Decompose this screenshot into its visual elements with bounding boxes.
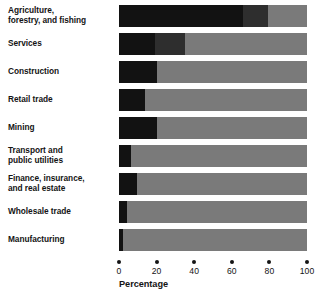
category-label: Construction: [8, 66, 115, 76]
bar-segment-dark-segment: [119, 145, 131, 167]
category-label: Finance, insurance,and real estate: [8, 173, 115, 194]
category-label-line: Services: [8, 38, 115, 48]
x-axis-tick-label: 40: [180, 266, 208, 276]
bar-segment-dark-segment: [119, 5, 243, 27]
bar-row: [119, 33, 307, 55]
bar-row: [119, 173, 307, 195]
x-axis-title: Percentage: [119, 279, 168, 289]
category-label: Agriculture,forestry, and fishing: [8, 5, 115, 26]
tick-dot-icon: [155, 260, 159, 264]
category-label: Services: [8, 38, 115, 48]
bar-row: [119, 145, 307, 167]
bar-segment-light-segment: [157, 117, 307, 139]
bar-row: [119, 5, 307, 27]
category-label-line: Finance, insurance,: [8, 173, 115, 183]
bar-segment-dark-segment: [119, 89, 145, 111]
tick-dot-icon: [230, 260, 234, 264]
category-label-line: Retail trade: [8, 94, 115, 104]
bar-segment-light-segment: [157, 61, 307, 83]
category-label-line: forestry, and fishing: [8, 15, 115, 25]
x-axis-tick-label: 60: [218, 266, 246, 276]
category-label-line: Construction: [8, 66, 115, 76]
category-label-line: Mining: [8, 122, 115, 132]
bar-segment-medium-segment: [155, 33, 185, 55]
bar-segment-light-segment: [127, 201, 307, 223]
bar-segment-dark-segment: [119, 173, 137, 195]
bar-segment-light-segment: [145, 89, 307, 111]
category-label-line: Wholesale trade: [8, 206, 115, 216]
bar-segment-light-segment: [137, 173, 307, 195]
category-label: Retail trade: [8, 94, 115, 104]
plot-area: [119, 0, 307, 258]
x-axis-tick-label: 20: [143, 266, 171, 276]
bar-row: [119, 201, 307, 223]
bar-segment-light-segment: [268, 5, 307, 27]
bar-row: [119, 229, 307, 251]
x-axis: 020406080100: [119, 258, 307, 298]
category-label-line: Manufacturing: [8, 234, 115, 244]
category-label-line: Transport and: [8, 145, 115, 155]
bar-segment-dark-segment: [119, 117, 157, 139]
category-labels-column: Agriculture,forestry, and fishingService…: [0, 0, 113, 258]
tick-dot-icon: [267, 260, 271, 264]
category-label-line: Agriculture,: [8, 5, 115, 15]
bar-segment-dark-segment: [119, 201, 127, 223]
category-label: Wholesale trade: [8, 206, 115, 216]
x-axis-tick-label: 80: [255, 266, 283, 276]
bar-segment-light-segment: [131, 145, 307, 167]
bar-row: [119, 61, 307, 83]
bar-segment-dark-segment: [119, 61, 157, 83]
category-label: Mining: [8, 122, 115, 132]
category-label-line: public utilities: [8, 155, 115, 165]
bar-row: [119, 117, 307, 139]
category-label-line: and real estate: [8, 183, 115, 193]
bar-segment-light-segment: [123, 229, 307, 251]
bar-segment-dark-segment: [119, 33, 155, 55]
category-label: Manufacturing: [8, 234, 115, 244]
x-axis-tick-label: 0: [105, 266, 133, 276]
stacked-bar-chart: Agriculture,forestry, and fishingService…: [0, 0, 321, 298]
bar-row: [119, 89, 307, 111]
tick-dot-icon: [305, 260, 309, 264]
bar-segment-light-segment: [185, 33, 307, 55]
tick-dot-icon: [117, 260, 121, 264]
x-axis-tick-label: 100: [293, 266, 321, 276]
tick-dot-icon: [192, 260, 196, 264]
category-label: Transport andpublic utilities: [8, 145, 115, 166]
bar-segment-medium-segment: [243, 5, 267, 27]
